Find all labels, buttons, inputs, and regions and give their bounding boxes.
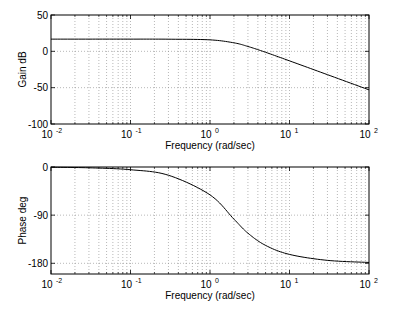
bode-plot-figure: 10-210-1100101102500-50-100Frequency (ra… [0,0,399,314]
x-tick-label: 10 [121,129,133,140]
x-tick-label: 10 [41,129,53,140]
x-tick-label: 10 [41,279,53,290]
y-tick-label: -90 [34,210,49,221]
x-tick-exponent: 1 [295,127,299,134]
x-tick-exponent: -2 [56,277,62,284]
y-tick-label: 0 [42,162,48,173]
gain-axes: 10-210-1100101102500-50-100Frequency (ra… [17,10,378,152]
gain-curve [51,39,369,90]
x-tick-exponent: -1 [136,277,142,284]
grid [51,15,369,124]
x-tick-label: 10 [280,279,292,290]
y-axis-label: Phase deg [17,197,28,245]
x-tick-exponent: 0 [215,277,219,284]
y-tick-label: 50 [37,10,49,21]
x-tick-label: 10 [200,129,212,140]
x-axis-label: Frequency (rad/sec) [165,140,254,151]
y-tick-label: 0 [42,46,48,57]
x-tick-label: 10 [359,279,371,290]
phase-axes: 10-210-11001011020-90-180Frequency (rad/… [17,162,378,302]
x-tick-label: 10 [200,279,212,290]
x-tick-exponent: -2 [56,127,62,134]
y-tick-label: -100 [28,119,48,130]
x-tick-exponent: 2 [374,277,378,284]
x-axis-label: Frequency (rad/sec) [165,290,254,301]
x-tick-exponent: 2 [374,127,378,134]
x-tick-label: 10 [359,129,371,140]
x-tick-exponent: 1 [295,277,299,284]
x-tick-label: 10 [121,279,133,290]
y-tick-label: -50 [34,82,49,93]
x-tick-label: 10 [280,129,292,140]
y-tick-label: -180 [28,258,48,269]
x-tick-exponent: -1 [136,127,142,134]
y-axis-label: Gain dB [17,51,28,87]
grid [51,167,369,274]
x-tick-exponent: 0 [215,127,219,134]
